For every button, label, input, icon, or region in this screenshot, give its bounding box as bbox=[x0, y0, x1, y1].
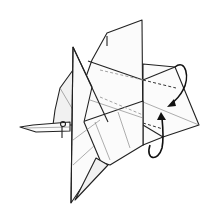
left-wing bbox=[20, 122, 70, 139]
left-body bbox=[53, 70, 73, 125]
origami-diagram bbox=[0, 0, 212, 208]
